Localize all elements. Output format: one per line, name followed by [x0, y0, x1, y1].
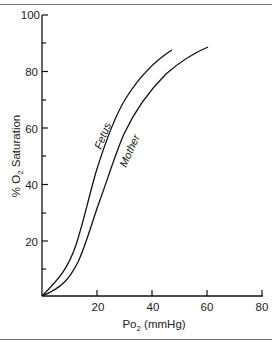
y-axis-title: % O2 Saturation [10, 115, 25, 197]
x-tick-40: 40 [147, 301, 160, 313]
y-tick-60: 60 [25, 123, 38, 135]
y-tick-100: 100 [21, 9, 40, 21]
y-tick-20: 20 [25, 236, 38, 248]
x-tick-60: 60 [201, 301, 214, 313]
fetus-label: Fetus [92, 120, 114, 150]
mother-curve [42, 47, 208, 296]
oxygen-dissociation-chart: 100 80 60 40 20 20 40 60 80 Po2 (mmHg) %… [0, 0, 278, 341]
x-axis-title: Po2 (mmHg) [122, 318, 185, 333]
y-ticks [42, 15, 48, 269]
mother-label: Mother [117, 131, 142, 168]
fetus-curve [42, 50, 172, 296]
x-tick-80: 80 [256, 301, 269, 313]
y-tick-80: 80 [25, 66, 38, 78]
x-tick-20: 20 [92, 301, 105, 313]
x-ticks [97, 290, 262, 296]
y-tick-40: 40 [25, 179, 38, 191]
